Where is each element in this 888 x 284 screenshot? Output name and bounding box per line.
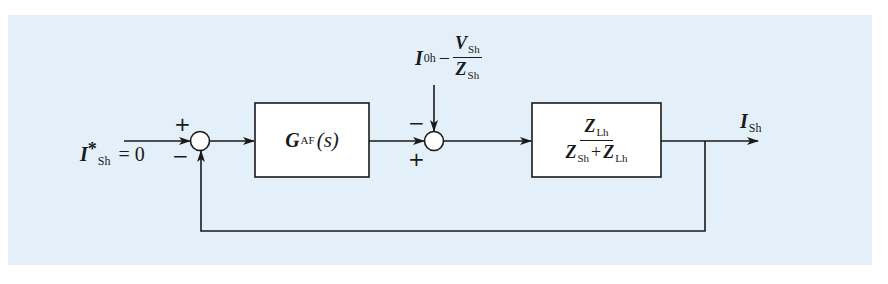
block1-symbol: G — [285, 130, 299, 150]
plant-fraction: ZLh ZSh+ZLh — [565, 117, 627, 164]
sum2-minus-sign: − — [408, 113, 425, 133]
summing-junction-1 — [191, 132, 210, 151]
plant-numerator-subscript: Lh — [596, 126, 608, 138]
sum2-plus-sign: + — [408, 149, 425, 169]
disturbance-operator: − — [439, 48, 450, 68]
output-label: ISh — [740, 111, 761, 134]
disturbance-term1-symbol: I — [415, 48, 423, 68]
plant-denominator-operator: + — [591, 142, 601, 162]
plant-denominator-term1-subscript: Sh — [577, 152, 589, 164]
plant-denominator-term2-symbol: Z — [603, 142, 614, 162]
plant-numerator-symbol: Z — [584, 116, 595, 136]
input-subscript: Sh — [98, 154, 111, 168]
output-subscript: Sh — [749, 121, 762, 135]
plant-denominator-term2-subscript: Lh — [615, 152, 627, 164]
sum1-plus-sign: + — [174, 114, 191, 134]
disturbance-numerator-symbol: V — [455, 33, 467, 53]
input-value: = 0 — [118, 143, 144, 165]
input-symbol: I — [80, 143, 88, 165]
block1-argument: (s) — [317, 130, 339, 151]
disturbance-numerator-subscript: Sh — [468, 43, 480, 55]
disturbance-fraction: VSh ZSh — [453, 34, 482, 81]
input-label: I*Sh = 0 — [80, 140, 145, 167]
input-superscript: * — [88, 139, 97, 159]
disturbance-denominator-subscript: Sh — [468, 69, 480, 81]
plant-transfer-function: ZLh ZSh+ZLh — [532, 103, 661, 177]
controller-transfer-function: GAF(s) — [255, 103, 369, 177]
disturbance-label: I0h − VSh ZSh — [415, 34, 482, 81]
block1-subscript: AF — [301, 135, 315, 146]
sum1-minus-sign: − — [172, 146, 189, 166]
plant-denominator-term1-symbol: Z — [565, 142, 576, 162]
summing-junction-2 — [425, 132, 444, 151]
disturbance-denominator-symbol: Z — [456, 59, 467, 79]
output-symbol: I — [740, 110, 748, 132]
disturbance-term1-subscript: 0h — [424, 52, 436, 64]
